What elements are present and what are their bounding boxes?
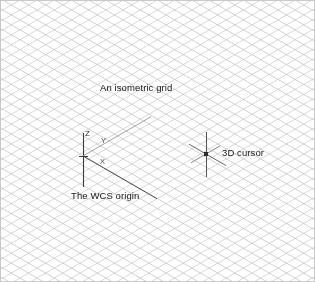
label-3d-cursor: 3D cursor [222,147,264,158]
isometric-grid-figure: An isometric grid The WCS origin 3D curs… [0,0,315,282]
label-isometric-grid: An isometric grid [100,82,172,93]
axis-label-x: X [100,158,105,166]
isometric-grid-canvas [1,1,314,281]
axis-label-z: Z [85,130,90,138]
label-wcs-origin: The WCS origin [71,190,139,201]
axis-label-y: Y [101,137,106,145]
